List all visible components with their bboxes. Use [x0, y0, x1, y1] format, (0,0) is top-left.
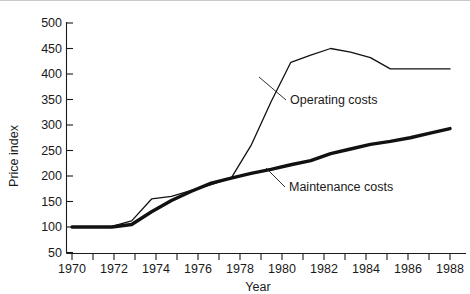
y-tick-label: 200: [41, 169, 62, 183]
x-tick-label: 1986: [394, 262, 422, 276]
y-tick-label: 150: [41, 195, 62, 209]
x-tick-label: 1988: [436, 262, 464, 276]
series-line-maintenance-costs: [72, 129, 450, 227]
y-axis-tick-labels: 500 450 400 350 300 250 200 150 100 50: [41, 16, 62, 260]
y-tick-label: 300: [41, 118, 62, 132]
x-tick-label: 1970: [58, 262, 86, 276]
line-chart-canvas: 500 450 400 350 300 250 200 150 100 50: [0, 1, 470, 294]
x-tick-label: 1972: [100, 262, 128, 276]
x-tick-label: 1984: [352, 262, 380, 276]
x-tick-label: 1978: [226, 262, 254, 276]
y-tick-label: 50: [48, 246, 62, 260]
y-tick-label: 100: [41, 220, 62, 234]
y-tick-label: 500: [41, 16, 62, 30]
series-label-operating-costs: Operating costs: [290, 93, 378, 107]
y-axis-ticks: [67, 23, 74, 253]
y-tick-label: 250: [41, 144, 62, 158]
x-tick-label: 1974: [142, 262, 170, 276]
y-tick-label: 450: [41, 42, 62, 56]
y-tick-label: 350: [41, 93, 62, 107]
y-tick-label: 400: [41, 67, 62, 81]
x-axis-ticks: [72, 254, 450, 261]
x-axis-title: Year: [245, 280, 270, 294]
x-tick-label: 1982: [310, 262, 338, 276]
y-axis-title: Price index: [7, 124, 21, 187]
leader-line-maintenance-costs: [266, 168, 285, 187]
x-tick-label: 1976: [184, 262, 212, 276]
series-line-operating-costs: [72, 49, 450, 228]
x-axis-tick-labels: 1970 1972 1974 1976 1978 1980 1982 1984 …: [58, 262, 464, 276]
series-label-maintenance-costs: Maintenance costs: [289, 180, 393, 194]
x-tick-label: 1980: [268, 262, 296, 276]
chart-figure: 500 450 400 350 300 250 200 150 100 50: [0, 0, 470, 294]
